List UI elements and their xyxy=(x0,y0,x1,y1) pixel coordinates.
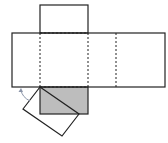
fold-lines xyxy=(40,33,116,87)
top-face xyxy=(40,5,88,33)
prism-net-diagram xyxy=(0,0,168,143)
arrowhead-icon xyxy=(19,88,24,92)
shaded-face xyxy=(40,87,88,114)
